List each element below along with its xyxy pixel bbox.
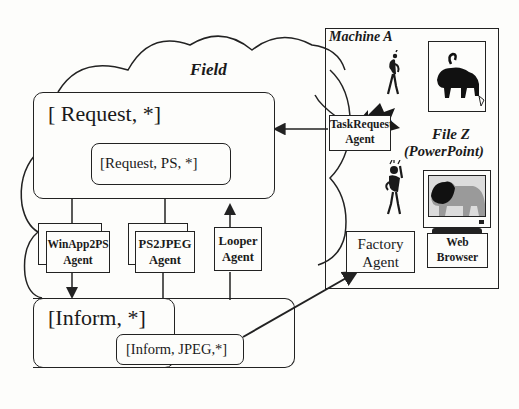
web-browser-monitor[interactable]	[423, 170, 491, 228]
looper-line1: Looper	[215, 233, 261, 249]
file-z-document[interactable]	[428, 41, 486, 112]
request-outer-label: [ Request, *]	[48, 101, 161, 127]
inform-jpeg-box: [Inform, JPEG,*]	[116, 334, 244, 365]
browser-line2: Browser	[428, 250, 487, 265]
inform-outer-label: [Inform, *]	[48, 305, 146, 331]
winapp2ps-line1: WinApp2PS	[47, 236, 109, 252]
file-z-label: File Z	[432, 126, 470, 143]
winapp2ps-agent[interactable]: WinApp2PS Agent	[46, 231, 110, 273]
ps2jpeg-line2: Agent	[136, 252, 194, 268]
request-ps-box: [Request, PS, *]	[91, 143, 231, 185]
taskrequest-line1: TaskRequest	[330, 117, 390, 132]
winapp2ps-line2: Agent	[47, 252, 109, 268]
taskrequest-agent[interactable]: TaskRequest Agent	[329, 115, 391, 151]
file-z-sublabel: (PowerPoint)	[404, 143, 484, 160]
factory-line2: Agent	[347, 253, 414, 271]
monitor-button	[479, 220, 484, 224]
factory-agent[interactable]: Factory Agent	[346, 231, 415, 273]
looper-agent[interactable]: Looper Agent	[214, 227, 262, 271]
ps2jpeg-agent[interactable]: PS2JPEG Agent	[135, 231, 195, 273]
inform-inner-label: [Inform, JPEG,*]	[126, 341, 227, 358]
ps2jpeg-line1: PS2JPEG	[136, 236, 194, 252]
person-idea-icon	[384, 160, 410, 218]
factory-line1: Factory	[347, 235, 414, 253]
monitor-screen	[428, 175, 486, 217]
looper-line2: Agent	[215, 249, 261, 265]
person-icon	[381, 50, 405, 98]
field-title: Field	[190, 60, 227, 80]
machine-a-title: Machine A	[329, 29, 393, 45]
browser-line1: Web	[428, 235, 487, 250]
request-inner-label: [Request, PS, *]	[100, 155, 198, 172]
lion-icon	[429, 42, 485, 111]
web-browser-box[interactable]: Web Browser	[427, 233, 488, 268]
taskrequest-line2: Agent	[330, 132, 390, 147]
lion-screen-icon	[429, 176, 486, 217]
